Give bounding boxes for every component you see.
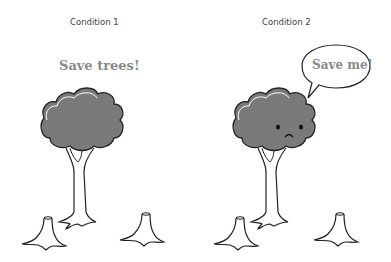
illustration: [0, 0, 391, 262]
tree-condition-1: [41, 88, 123, 229]
stump-right-1: [120, 213, 164, 246]
stump-right-2: [314, 213, 358, 246]
tree-condition-2: [233, 88, 315, 229]
save-me-bubble-text: Save me!: [312, 58, 373, 72]
